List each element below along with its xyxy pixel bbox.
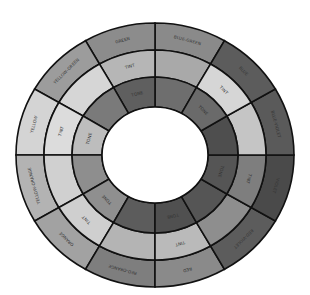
- center-hole: [102, 107, 208, 203]
- color-wheel-diagram: BLUE-GREENGREENTINTTONEYELLOW-GREENYELLO…: [0, 0, 310, 295]
